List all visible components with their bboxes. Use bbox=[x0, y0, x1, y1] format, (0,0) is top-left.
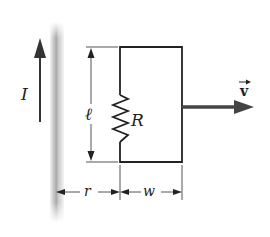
velocity-arrow-icon bbox=[182, 100, 254, 114]
distance-label: r bbox=[84, 183, 92, 199]
length-label: ℓ bbox=[85, 104, 92, 124]
circuit-diagram: I R v ℓ r w bbox=[0, 0, 270, 237]
current-arrow-icon bbox=[34, 38, 46, 122]
current-label: I bbox=[20, 84, 28, 104]
resistor-icon bbox=[113, 95, 128, 142]
circuit-loop bbox=[113, 47, 182, 162]
velocity-label: v bbox=[239, 83, 249, 99]
width-dimension bbox=[56, 165, 182, 200]
resistance-label: R bbox=[130, 110, 144, 130]
width-label: w bbox=[143, 183, 155, 199]
